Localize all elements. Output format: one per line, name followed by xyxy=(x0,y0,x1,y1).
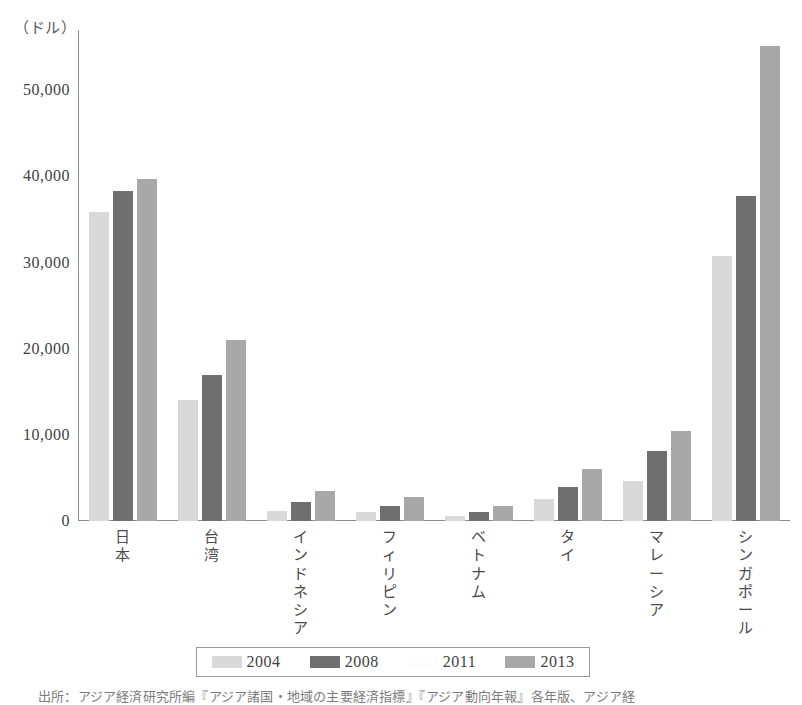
bar-2008 xyxy=(469,512,489,521)
bar-group xyxy=(167,30,256,521)
legend-label: 2004 xyxy=(247,653,281,671)
x-category-label-char: シ xyxy=(726,528,766,546)
legend-swatch-icon xyxy=(505,656,535,668)
x-category-label-char: シ xyxy=(281,601,321,619)
x-category-label-char: レ xyxy=(637,546,677,564)
x-category-label-char: ポ xyxy=(726,583,766,601)
x-category-label-char: ネ xyxy=(281,583,321,601)
x-category-label: シンガポール xyxy=(726,528,766,638)
x-category-label-char: マ xyxy=(637,528,677,546)
bar-2013 xyxy=(137,179,157,521)
x-category-label-char: ン xyxy=(281,546,321,564)
x-category-label-char: ベ xyxy=(459,528,499,546)
source-note: 出所：アジア経済研究所編『アジア諸国・地域の主要経済指標』『アジア動向年報』各年… xyxy=(38,686,635,705)
legend-item-2004[interactable]: 2004 xyxy=(212,653,281,671)
y-tick-label: 30,000 xyxy=(0,254,70,272)
bar-2013 xyxy=(493,506,513,522)
x-category-label-char: ガ xyxy=(726,565,766,583)
bar-group xyxy=(78,30,167,521)
x-category-label-char: ン xyxy=(726,546,766,564)
y-tick-label: 40,000 xyxy=(0,167,70,185)
bar-2013 xyxy=(760,46,780,521)
x-category-label-char: ド xyxy=(281,565,321,583)
bar-2008 xyxy=(291,502,311,521)
legend-swatch-icon xyxy=(408,656,438,668)
y-axis-unit-caption: （ドル） xyxy=(14,16,76,37)
x-category-label-char: ア xyxy=(281,619,321,637)
x-category-label-char: ム xyxy=(459,583,499,601)
y-tick-label: 10,000 xyxy=(0,426,70,444)
x-category-label-char: ナ xyxy=(459,565,499,583)
bar-2013 xyxy=(582,469,602,521)
chart-plot-area xyxy=(78,30,790,521)
legend-item-2013[interactable]: 2013 xyxy=(505,653,574,671)
x-category-label-char: 日 xyxy=(103,528,143,546)
x-category-label-char: 台 xyxy=(192,528,232,546)
x-category-label-char: ア xyxy=(637,601,677,619)
bar-2004 xyxy=(712,256,732,521)
legend-swatch-icon xyxy=(310,656,340,668)
bar-2008 xyxy=(647,451,667,521)
chart-legend: 2004200820112013 xyxy=(196,647,590,677)
bar-group xyxy=(345,30,434,521)
bar-group xyxy=(523,30,612,521)
bar-2004 xyxy=(356,512,376,521)
bar-2008 xyxy=(202,375,222,521)
x-category-label-char: ピ xyxy=(370,583,410,601)
bar-2008 xyxy=(736,196,756,521)
bar-2013 xyxy=(226,340,246,521)
legend-item-2008[interactable]: 2008 xyxy=(310,653,379,671)
x-category-label: 日本 xyxy=(103,528,143,565)
bar-group xyxy=(256,30,345,521)
bar-2008 xyxy=(113,191,133,521)
x-category-label-char: ー xyxy=(726,601,766,619)
bar-2004 xyxy=(267,511,287,521)
bar-2013 xyxy=(404,497,424,521)
legend-label: 2013 xyxy=(540,653,574,671)
bar-2013 xyxy=(315,491,335,521)
x-category-label: ベトナム xyxy=(459,528,499,601)
bar-2004 xyxy=(89,212,109,521)
y-tick-label: 50,000 xyxy=(0,81,70,99)
x-category-label-char: ト xyxy=(459,546,499,564)
x-category-label-char: ル xyxy=(726,619,766,637)
x-category-label-char: 本 xyxy=(103,546,143,564)
x-category-label: インドネシア xyxy=(281,528,321,638)
x-category-label-char: リ xyxy=(370,565,410,583)
x-category-label-char: イ xyxy=(281,528,321,546)
legend-item-2011[interactable]: 2011 xyxy=(408,653,476,671)
x-category-label: タイ xyxy=(548,528,588,565)
x-category-label-char: タ xyxy=(548,528,588,546)
bar-2004 xyxy=(534,499,554,521)
legend-label: 2008 xyxy=(345,653,379,671)
bar-group xyxy=(701,30,790,521)
x-category-label-char: ィ xyxy=(370,546,410,564)
bar-2004 xyxy=(445,516,465,521)
bar-group xyxy=(434,30,523,521)
bar-2004 xyxy=(623,481,643,521)
bar-2013 xyxy=(671,431,691,521)
bar-2004 xyxy=(178,400,198,521)
x-category-label-char: ー xyxy=(637,565,677,583)
legend-label: 2011 xyxy=(443,653,476,671)
bar-2008 xyxy=(558,487,578,521)
y-tick-label: 20,000 xyxy=(0,340,70,358)
x-category-label: マレーシア xyxy=(637,528,677,619)
x-category-label-char: シ xyxy=(637,583,677,601)
y-tick-label: 0 xyxy=(0,512,70,530)
x-category-label-char: ン xyxy=(370,601,410,619)
bar-group xyxy=(612,30,701,521)
x-category-label-char: 湾 xyxy=(192,546,232,564)
x-category-label-char: イ xyxy=(548,546,588,564)
legend-swatch-icon xyxy=(212,656,242,668)
x-category-label-char: フ xyxy=(370,528,410,546)
bar-2008 xyxy=(380,506,400,522)
x-category-label: フィリピン xyxy=(370,528,410,619)
x-category-label: 台湾 xyxy=(192,528,232,565)
